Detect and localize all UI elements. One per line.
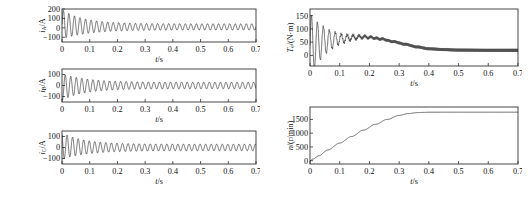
- x-tick-label: 0.3: [140, 45, 150, 54]
- y-tick-label: 100: [48, 14, 60, 23]
- plot-frame: [62, 131, 256, 164]
- plot-frame: [310, 9, 518, 66]
- y-tick-label: 0: [56, 81, 60, 90]
- x-tick-label: 0.3: [394, 167, 404, 176]
- panel-phase-a-current: 00.10.20.30.40.50.60.7t/s−1000100200iA/A: [38, 6, 260, 64]
- x-axis-title: t/s: [410, 177, 418, 186]
- x-tick-label: 0.1: [85, 45, 95, 54]
- x-tick-label: 0.6: [483, 69, 493, 78]
- x-tick-label: 0.4: [424, 167, 434, 176]
- x-tick-label: 0.2: [364, 167, 374, 176]
- x-tick-label: 0.3: [394, 69, 404, 78]
- y-tick-label: 0: [56, 143, 60, 152]
- x-tick-label: 0.4: [168, 105, 178, 114]
- x-tick-label: 0.7: [513, 167, 522, 176]
- figure-canvas: 00.10.20.30.40.50.60.7t/s−1000100200iA/A…: [0, 0, 532, 199]
- y-tick-label: 0: [304, 157, 308, 166]
- y-axis-title: iC/A: [38, 140, 47, 154]
- plot-frame: [62, 9, 256, 42]
- x-tick-label: 0.7: [251, 45, 260, 54]
- x-tick-label: 0.1: [335, 167, 345, 176]
- y-tick-label: 100: [296, 25, 308, 34]
- y-tick-label: 200: [48, 6, 60, 14]
- x-tick-label: 0.6: [223, 167, 233, 176]
- data-series-line: [62, 134, 256, 158]
- plot-frame: [62, 69, 256, 102]
- x-axis: 00.10.20.30.40.50.60.7: [308, 63, 522, 78]
- y-tick-label: 500: [296, 143, 308, 152]
- plot-frame: [310, 107, 518, 164]
- x-tick-label: 0.4: [168, 45, 178, 54]
- y-axis-title: n/(r/min): [286, 120, 295, 150]
- x-axis: 00.10.20.30.40.50.60.7: [60, 39, 260, 54]
- x-tick-label: 0.5: [195, 105, 205, 114]
- x-axis-title: t/s: [410, 79, 418, 88]
- y-tick-label: 0: [56, 24, 60, 33]
- x-tick-label: 0.5: [453, 167, 463, 176]
- x-tick-label: 0.3: [140, 167, 150, 176]
- y-axis-title: iA/A: [38, 18, 47, 33]
- x-tick-label: 0.1: [85, 105, 95, 114]
- x-tick-label: 0.7: [251, 105, 260, 114]
- y-axis-title: iB/A: [38, 78, 47, 92]
- y-tick-label: 0: [304, 51, 308, 60]
- y-tick-label: −100: [43, 92, 60, 101]
- x-tick-label: 0.2: [112, 167, 122, 176]
- x-tick-label: 0.7: [251, 167, 260, 176]
- x-axis: 00.10.20.30.40.50.60.7: [60, 161, 260, 176]
- y-tick-label: 100: [48, 132, 60, 141]
- x-tick-label: 0.1: [85, 167, 95, 176]
- x-axis-title: t/s: [155, 115, 163, 124]
- x-tick-label: 0.6: [223, 45, 233, 54]
- x-tick-label: 0.5: [195, 45, 205, 54]
- x-axis: 00.10.20.30.40.50.60.7: [60, 99, 260, 114]
- x-tick-label: 0.7: [513, 69, 522, 78]
- data-series-line: [310, 112, 518, 161]
- x-tick-label: 0.4: [168, 167, 178, 176]
- x-axis-title: t/s: [155, 177, 163, 186]
- x-tick-label: 0: [60, 45, 64, 54]
- panel-phase-b-current: 00.10.20.30.40.50.60.7t/s−1000100iB/A: [38, 66, 260, 124]
- x-tick-label: 0.3: [140, 105, 150, 114]
- x-tick-label: 0: [308, 167, 312, 176]
- x-axis: 00.10.20.30.40.50.60.7: [308, 161, 522, 176]
- panel-phase-c-current: 00.10.20.30.40.50.60.7t/s−1000100iC/A: [38, 128, 260, 186]
- x-tick-label: 0.5: [453, 69, 463, 78]
- data-series-line: [310, 15, 518, 69]
- x-tick-label: 0.6: [483, 167, 493, 176]
- y-tick-label: 100: [48, 70, 60, 79]
- panel-electromagnetic-torque: 00.10.20.30.40.50.60.7t/s050100150Te/(N·…: [286, 6, 522, 88]
- x-tick-label: 0.6: [223, 105, 233, 114]
- y-tick-label: −100: [43, 154, 60, 163]
- x-tick-label: 0: [308, 69, 312, 78]
- y-tick-label: −100: [43, 33, 60, 42]
- x-tick-label: 0.1: [335, 69, 345, 78]
- x-tick-label: 0.2: [112, 105, 122, 114]
- data-series-line: [62, 10, 256, 37]
- x-tick-label: 0: [60, 105, 64, 114]
- panel-rotor-speed: 00.10.20.30.40.50.60.7t/s050010001500n/(…: [286, 104, 522, 186]
- y-tick-label: 150: [296, 12, 308, 21]
- x-axis-title: t/s: [155, 55, 163, 64]
- x-tick-label: 0: [60, 167, 64, 176]
- y-tick-label: 50: [300, 38, 308, 47]
- x-tick-label: 0.2: [112, 45, 122, 54]
- x-tick-label: 0.4: [424, 69, 434, 78]
- y-axis-title: Te/(N·m): [286, 22, 295, 52]
- x-tick-label: 0.5: [195, 167, 205, 176]
- data-series-line: [62, 75, 256, 100]
- x-tick-label: 0.2: [364, 69, 374, 78]
